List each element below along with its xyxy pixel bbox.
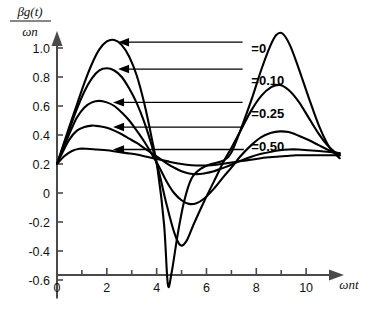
annotation-0-arrow bbox=[118, 38, 129, 46]
curve-lowest bbox=[57, 149, 340, 166]
y-tick-label: 0.2 bbox=[33, 158, 50, 172]
annotation-1-arrow bbox=[118, 65, 129, 73]
annotation-label-0: =0 bbox=[251, 41, 266, 56]
annotation-label-1: =0.10 bbox=[251, 73, 284, 88]
annotation-label-2: =0.25 bbox=[251, 106, 284, 121]
curve-025 bbox=[57, 101, 340, 204]
annotation-label-3: =0.50 bbox=[251, 139, 284, 154]
annotations: =0=0.10=0.25=0.50 bbox=[113, 38, 284, 154]
y-tick-label: 0.6 bbox=[33, 100, 50, 114]
chart-container: -0.6-0.4-0.200.20.40.60.81.00246810 =0=0… bbox=[0, 0, 368, 317]
y-axis-title-denominator: ωn bbox=[22, 24, 38, 39]
y-tick-label: 1.0 bbox=[33, 42, 50, 56]
x-tick-label: 0 bbox=[54, 281, 61, 295]
damped-response-chart: -0.6-0.4-0.200.20.40.60.81.00246810 =0=0… bbox=[0, 0, 368, 317]
y-tick-label: 0 bbox=[43, 187, 50, 201]
x-tick-label: 8 bbox=[253, 281, 260, 295]
x-tick-label: 10 bbox=[299, 281, 313, 295]
x-axis-title: ωnt bbox=[339, 277, 359, 292]
x-tick-label: 4 bbox=[153, 281, 160, 295]
y-tick-label: -0.4 bbox=[28, 245, 50, 259]
y-tick-label: 0.4 bbox=[33, 129, 50, 143]
y-tick-label: -0.2 bbox=[28, 216, 50, 230]
y-axis-arrow bbox=[52, 31, 63, 46]
curve-010 bbox=[57, 68, 340, 245]
x-tick-label: 2 bbox=[103, 281, 110, 295]
y-tick-label: -0.6 bbox=[28, 274, 50, 288]
x-tick-label: 6 bbox=[203, 281, 210, 295]
y-tick-label: 0.8 bbox=[33, 71, 50, 85]
curves bbox=[57, 33, 340, 287]
y-axis-title-numerator: βg(t) bbox=[16, 4, 42, 19]
